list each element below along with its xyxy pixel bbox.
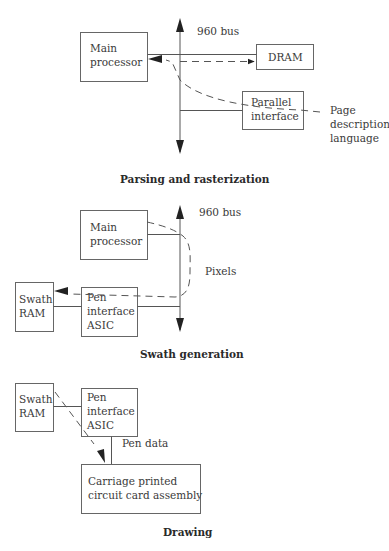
main-processor-label-1: Main xyxy=(90,42,117,54)
swath-ram-label-1: Swath xyxy=(19,293,53,305)
swath-ram-label-2: RAM xyxy=(19,307,45,319)
asic-label-3: ASIC xyxy=(86,419,114,431)
bus-arrow-down-icon xyxy=(176,140,184,154)
bus-label: 960 bus xyxy=(199,206,241,218)
pen-data-label: Pen data xyxy=(122,437,168,449)
pdl-label-1: Page xyxy=(330,104,356,116)
printer-dataflow-diagram: 960 bus Main processor DRAM Parallel int… xyxy=(0,0,389,551)
asic-label-3: ASIC xyxy=(86,319,114,331)
pixels-label: Pixels xyxy=(205,265,236,277)
section-parsing-rasterization: 960 bus Main processor DRAM Parallel int… xyxy=(81,18,389,185)
swath-ram-label-1: Swath xyxy=(19,393,53,405)
bus-label: 960 bus xyxy=(197,25,239,37)
bus-arrow-up-icon xyxy=(176,205,184,219)
swath-ram-label-2: RAM xyxy=(19,407,45,419)
main-processor-label-1: Main xyxy=(90,221,117,233)
asic-label-1: Pen xyxy=(87,391,107,403)
main-processor-label-2: processor xyxy=(90,56,143,68)
parallel-interface-label-2: interface xyxy=(251,110,299,122)
section-title: Swath generation xyxy=(140,348,244,360)
asic-label-1: Pen xyxy=(87,291,107,303)
main-processor-label-2: processor xyxy=(90,235,143,247)
pdl-label-3: language xyxy=(330,132,379,144)
bus-arrow-down-icon xyxy=(176,318,184,332)
asic-label-2: interface xyxy=(87,405,135,417)
carriage-input-arrow-icon xyxy=(97,449,105,463)
bus-arrow-up-icon xyxy=(176,18,184,32)
section-swath-generation: 960 bus Main processor Swath RAM Pen int… xyxy=(16,205,245,360)
section-title: Parsing and rasterization xyxy=(120,173,270,185)
asic-label-2: interface xyxy=(87,305,135,317)
dram-label: DRAM xyxy=(268,51,303,63)
section-title: Drawing xyxy=(163,526,213,538)
carriage-label-1: Carriage printed xyxy=(88,475,178,487)
pdl-label-2: description xyxy=(330,118,389,130)
section-drawing: Swath RAM Pen interface ASIC Pen data Ca… xyxy=(16,384,214,539)
processor-input-arrow-icon xyxy=(148,55,162,63)
swath-ram-input-arrow-icon xyxy=(54,287,68,295)
carriage-label-2: circuit card assembly xyxy=(88,489,202,501)
